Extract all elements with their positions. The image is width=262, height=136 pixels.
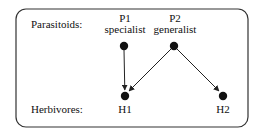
node-p1-role: specialist [105,23,146,35]
node-p2 [170,42,178,50]
node-p2-role: generalist [154,23,197,35]
parasitoids-row-label: Parasitoids: [31,18,82,30]
node-h2-name: H2 [216,103,229,115]
edge-p2-h1-arrow [129,49,171,91]
node-h1-name: H1 [118,103,131,115]
node-p1 [120,42,128,50]
edge-p2-h2-arrow [177,49,219,91]
edge-p1-h1-arrow [124,50,125,90]
herbivores-row-label: Herbivores: [31,103,83,115]
node-h1 [121,92,129,100]
food-web-diagram: Parasitoids: Herbivores: P1 specialist P… [0,0,262,136]
node-h2 [219,92,227,100]
